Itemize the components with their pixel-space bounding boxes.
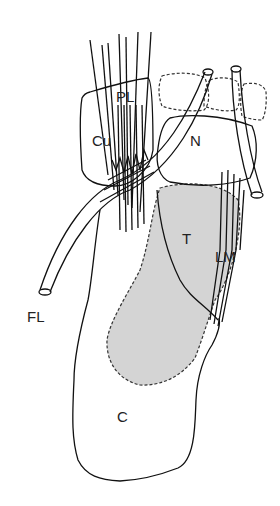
label-lm: LM xyxy=(215,248,236,265)
foot-anatomy-diagram: PL Cu N T LM FL C xyxy=(0,0,280,506)
second-tendon-end-top xyxy=(231,66,241,72)
label-cu: Cu xyxy=(92,132,111,149)
label-c: C xyxy=(117,408,128,425)
navicular-outline xyxy=(157,116,256,186)
fl-tendon-end-bottom xyxy=(39,289,51,295)
second-tendon-end-bottom xyxy=(251,192,263,198)
label-fl: FL xyxy=(27,308,45,325)
label-n: N xyxy=(190,132,201,149)
label-t: T xyxy=(182,230,191,247)
label-pl: PL xyxy=(116,88,134,105)
second-tendon xyxy=(232,70,262,195)
